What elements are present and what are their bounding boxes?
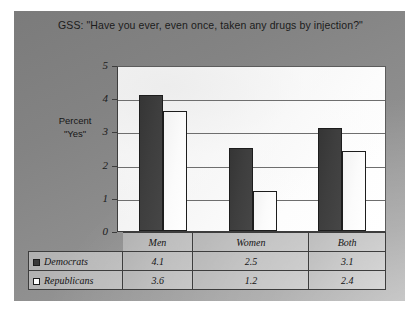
- y-tick-label-3: 3: [94, 125, 108, 137]
- chart-screenshot: GSS: "Have you ever, even once, taken an…: [0, 0, 419, 318]
- table-row: Democrats4.12.53.1: [29, 252, 386, 271]
- y-tick-label-1: 1: [94, 192, 108, 204]
- legend-item-republicans: Republicans: [29, 271, 123, 290]
- table-value-democrats-both: 3.1: [309, 252, 386, 271]
- bar-republicans-both: [342, 151, 366, 231]
- table-value-republicans-both: 2.4: [309, 271, 386, 290]
- table-value-republicans-men: 3.6: [123, 271, 193, 290]
- y-tick-label-5: 5: [94, 59, 108, 71]
- table-category-header-men: Men: [123, 233, 193, 252]
- legend-label-republicans: Republicans: [44, 275, 93, 286]
- bar-democrats-both: [318, 128, 342, 231]
- bar-republicans-women: [253, 191, 277, 231]
- table-value-republicans-women: 1.2: [193, 271, 309, 290]
- table-category-header-both: Both: [309, 233, 386, 252]
- bar-republicans-men: [163, 111, 187, 231]
- y-tick-label-2: 2: [94, 159, 108, 171]
- bar-democrats-women: [229, 148, 253, 231]
- chart-title: GSS: "Have you ever, even once, taken an…: [38, 18, 383, 33]
- table-value-democrats-women: 2.5: [193, 252, 309, 271]
- bar-democrats-men: [139, 95, 163, 231]
- plot-area: [117, 66, 386, 232]
- table-header-row: MenWomenBoth: [29, 233, 386, 252]
- table-category-header-women: Women: [193, 233, 309, 252]
- y-tick-label-4: 4: [94, 92, 108, 104]
- legend-swatch-icon-republicans: [33, 278, 40, 285]
- legend-item-democrats: Democrats: [29, 252, 123, 271]
- table-corner-cell: [29, 233, 123, 252]
- table-row: Republicans3.61.22.4: [29, 271, 386, 290]
- data-table: MenWomenBothDemocrats4.12.53.1Republican…: [28, 232, 386, 290]
- legend-label-democrats: Democrats: [44, 256, 88, 267]
- chart-panel: GSS: "Have you ever, even once, taken an…: [14, 11, 405, 301]
- table-value-democrats-men: 4.1: [123, 252, 193, 271]
- legend-swatch-icon-democrats: [33, 259, 40, 266]
